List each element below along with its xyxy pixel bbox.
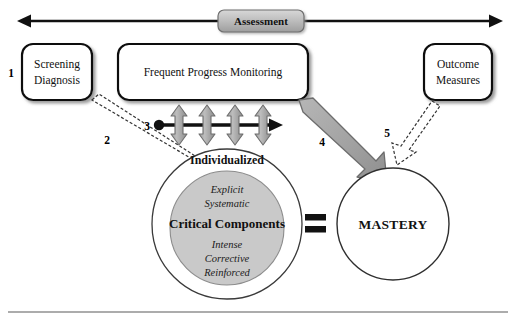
label-number-2: 2: [104, 134, 110, 146]
instruction-reinforced: Reinforced: [203, 267, 250, 278]
box-screening-diagnosis[interactable]: Screening Diagnosis: [22, 44, 92, 100]
label-number-1: 1: [8, 67, 14, 79]
screening-diagnosis-line1: Screening: [34, 58, 80, 71]
outcome-measures-line2: Measures: [436, 74, 481, 86]
outcome-measures-line1: Outcome: [437, 58, 479, 70]
box-outcome-measures[interactable]: Outcome Measures: [424, 44, 492, 100]
instruction-explicit: Explicit: [210, 184, 245, 195]
diagram-canvas: Assessment Screening Diagnosis 1 Frequen…: [0, 0, 516, 324]
connector-arrow-4: [299, 98, 387, 183]
connector-arrow-3-group: [154, 105, 283, 145]
instruction-circle: Individualized Explicit Systematic Criti…: [152, 149, 302, 299]
instruction-corrective: Corrective: [205, 253, 250, 264]
screening-diagnosis-line2: Diagnosis: [34, 74, 81, 87]
label-number-4: 4: [319, 136, 325, 148]
equals-sign: [305, 214, 326, 233]
diagram-root: Assessment Screening Diagnosis 1 Frequen…: [0, 0, 516, 324]
label-number-3: 3: [144, 120, 150, 132]
instruction-critical-components: Critical Components: [169, 216, 285, 231]
assessment-banner-label: Assessment: [234, 15, 288, 27]
frequent-progress-monitoring-label: Frequent Progress Monitoring: [144, 66, 283, 79]
connector-arrow-5: [392, 101, 440, 165]
box-frequent-progress-monitoring[interactable]: Frequent Progress Monitoring: [118, 44, 308, 100]
label-number-5: 5: [384, 127, 390, 139]
mastery-label: MASTERY: [358, 217, 427, 232]
instruction-outer-label: Individualized: [190, 153, 264, 167]
instruction-intense: Intense: [211, 239, 243, 250]
assessment-banner: Assessment: [218, 10, 304, 32]
instruction-systematic: Systematic: [205, 198, 250, 209]
mastery-circle: MASTERY: [337, 168, 449, 280]
